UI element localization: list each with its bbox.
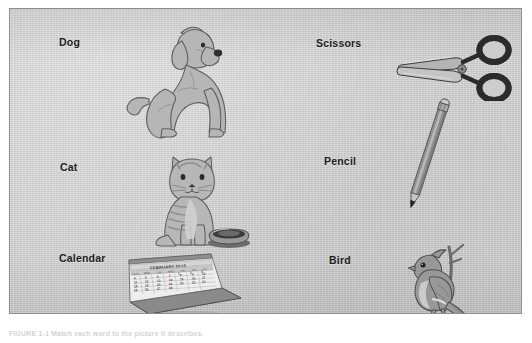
dog-illustration (118, 19, 228, 139)
scissors-illustration (393, 33, 518, 101)
label-calendar: Calendar (59, 252, 106, 264)
label-dog: Dog (59, 36, 80, 48)
bird-illustration (408, 241, 516, 314)
calendar-illustration: FEBRUARY 2013 SUN MON TUE WED THU FRI SA… (128, 252, 243, 314)
svg-text:28: 28 (169, 286, 173, 290)
label-bird: Bird (329, 254, 351, 266)
svg-text:25: 25 (134, 288, 138, 292)
svg-text:23: 23 (192, 280, 196, 284)
svg-text:27: 27 (157, 287, 161, 291)
figure-caption: FIGURE 1-1 Match each word to the pictur… (9, 330, 429, 341)
svg-text:22: 22 (180, 281, 184, 285)
label-pencil: Pencil (324, 155, 356, 167)
figure-container: Dog Cat Calendar Scissors Pencil Bird (0, 0, 532, 343)
pencil-illustration (388, 94, 468, 219)
svg-text:24: 24 (202, 280, 206, 284)
label-cat: Cat (60, 161, 78, 173)
illustration-panel: Dog Cat Calendar Scissors Pencil Bird (9, 8, 522, 314)
pet-food-bowl (206, 225, 252, 249)
svg-text:26: 26 (145, 287, 149, 291)
label-scissors: Scissors (316, 37, 361, 49)
